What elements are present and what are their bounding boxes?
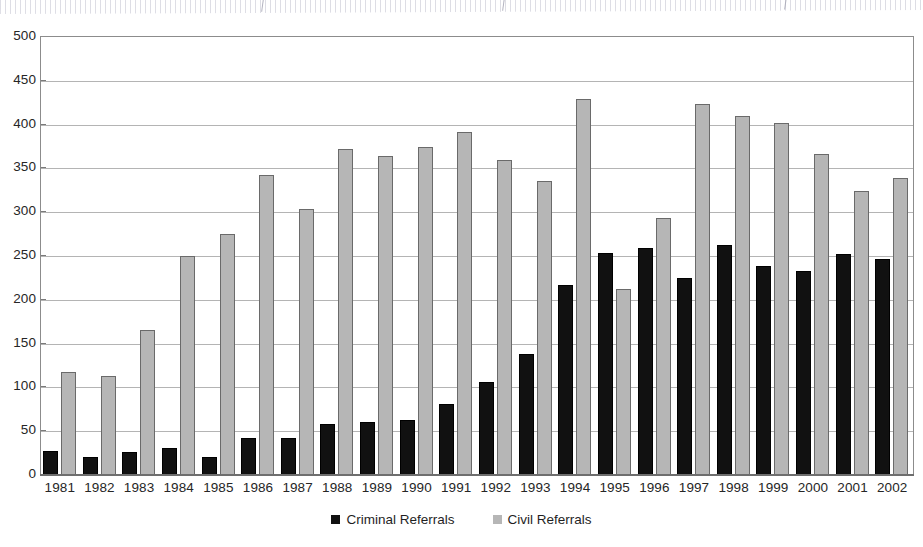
bar-criminal-referrals[interactable] xyxy=(241,438,256,475)
bar-civil-referrals[interactable] xyxy=(101,376,116,475)
y-tick-label: 100 xyxy=(2,379,36,393)
bar-group xyxy=(120,37,160,475)
bar-civil-referrals[interactable] xyxy=(537,181,552,475)
x-tick-label: 1987 xyxy=(278,480,318,496)
bar-group xyxy=(754,37,794,475)
x-tick-label: 1989 xyxy=(357,480,397,496)
bar-group xyxy=(160,37,200,475)
bar-group xyxy=(873,37,913,475)
x-tick-label: 1986 xyxy=(238,480,278,496)
bar-civil-referrals[interactable] xyxy=(140,330,155,475)
bar-civil-referrals[interactable] xyxy=(774,123,789,475)
legend-label: Criminal Referrals xyxy=(346,512,454,527)
y-tick-label: 250 xyxy=(2,248,36,262)
bar-criminal-referrals[interactable] xyxy=(638,248,653,475)
bar-group xyxy=(794,37,834,475)
bar-civil-referrals[interactable] xyxy=(616,289,631,475)
x-tick-label: 1990 xyxy=(397,480,437,496)
bar-civil-referrals[interactable] xyxy=(735,116,750,475)
bar-civil-referrals[interactable] xyxy=(299,209,314,475)
bar-criminal-referrals[interactable] xyxy=(479,382,494,475)
bar-group xyxy=(200,37,240,475)
y-tick-label: 500 xyxy=(2,29,36,43)
bar-civil-referrals[interactable] xyxy=(220,234,235,475)
y-tick-label: 0 xyxy=(2,467,36,481)
bar-group xyxy=(477,37,517,475)
bar-criminal-referrals[interactable] xyxy=(122,452,137,475)
bar-group xyxy=(517,37,557,475)
x-tick-label: 2001 xyxy=(833,480,873,496)
bar-criminal-referrals[interactable] xyxy=(400,420,415,475)
bar-criminal-referrals[interactable] xyxy=(796,271,811,475)
bar-criminal-referrals[interactable] xyxy=(598,253,613,475)
bar-criminal-referrals[interactable] xyxy=(756,266,771,475)
bar-civil-referrals[interactable] xyxy=(418,147,433,476)
bar-civil-referrals[interactable] xyxy=(259,175,274,475)
bar-criminal-referrals[interactable] xyxy=(439,404,454,475)
x-tick-label: 1983 xyxy=(119,480,159,496)
bar-civil-referrals[interactable] xyxy=(497,160,512,475)
bar-group xyxy=(556,37,596,475)
bar-civil-referrals[interactable] xyxy=(814,154,829,475)
legend-entry-civil[interactable]: Civil Referrals xyxy=(493,512,592,527)
bar-civil-referrals[interactable] xyxy=(378,156,393,475)
bar-group xyxy=(318,37,358,475)
bar-group xyxy=(675,37,715,475)
legend-swatch-icon xyxy=(493,515,502,524)
bar-group xyxy=(398,37,438,475)
x-tick-label: 1997 xyxy=(674,480,714,496)
x-tick-label: 1982 xyxy=(79,480,119,496)
x-axis-baseline xyxy=(40,474,914,476)
bar-criminal-referrals[interactable] xyxy=(875,259,890,475)
x-tick-label: 1988 xyxy=(317,480,357,496)
legend-swatch-icon xyxy=(331,515,340,524)
bar-chart: 500450400350300250200150100500 198119821… xyxy=(0,0,923,547)
bar-criminal-referrals[interactable] xyxy=(320,424,335,475)
y-tick-label: 50 xyxy=(2,423,36,437)
x-tick-label: 1985 xyxy=(198,480,238,496)
y-tick-label: 300 xyxy=(2,204,36,218)
bar-civil-referrals[interactable] xyxy=(893,178,908,475)
y-axis-label-group: 500450400350300250200150100500 xyxy=(0,0,36,547)
x-tick-label: 1992 xyxy=(476,480,516,496)
bar-civil-referrals[interactable] xyxy=(854,191,869,475)
x-tick-label: 1991 xyxy=(436,480,476,496)
bar-group xyxy=(834,37,874,475)
bar-group xyxy=(41,37,81,475)
y-tick-label: 150 xyxy=(2,336,36,350)
x-tick-label: 1994 xyxy=(555,480,595,496)
bar-criminal-referrals[interactable] xyxy=(202,457,217,475)
bar-group xyxy=(358,37,398,475)
bar-civil-referrals[interactable] xyxy=(576,99,591,475)
bar-civil-referrals[interactable] xyxy=(656,218,671,475)
bar-criminal-referrals[interactable] xyxy=(717,245,732,475)
bar-criminal-referrals[interactable] xyxy=(43,451,58,475)
bar-criminal-referrals[interactable] xyxy=(677,278,692,475)
bar-criminal-referrals[interactable] xyxy=(360,422,375,475)
bar-criminal-referrals[interactable] xyxy=(83,457,98,475)
x-tick-label: 1984 xyxy=(159,480,199,496)
bar-criminal-referrals[interactable] xyxy=(558,285,573,475)
bar-group xyxy=(715,37,755,475)
y-tick-label: 350 xyxy=(2,160,36,174)
legend-entry-criminal[interactable]: Criminal Referrals xyxy=(331,512,454,527)
bar-criminal-referrals[interactable] xyxy=(281,438,296,475)
bar-civil-referrals[interactable] xyxy=(180,256,195,475)
bar-group xyxy=(81,37,121,475)
x-tick-label: 1999 xyxy=(753,480,793,496)
bar-group xyxy=(636,37,676,475)
x-tick-label: 2000 xyxy=(793,480,833,496)
bar-civil-referrals[interactable] xyxy=(457,132,472,475)
x-tick-label: 1993 xyxy=(515,480,555,496)
bar-criminal-referrals[interactable] xyxy=(162,448,177,475)
x-tick-label: 1998 xyxy=(714,480,754,496)
bar-civil-referrals[interactable] xyxy=(695,104,710,475)
bar-criminal-referrals[interactable] xyxy=(836,254,851,475)
x-tick-label: 2002 xyxy=(872,480,912,496)
x-tick-label: 1996 xyxy=(634,480,674,496)
bar-civil-referrals[interactable] xyxy=(338,149,353,475)
bar-group xyxy=(437,37,477,475)
bar-civil-referrals[interactable] xyxy=(61,372,76,475)
plot-area xyxy=(40,36,914,475)
bar-criminal-referrals[interactable] xyxy=(519,354,534,475)
